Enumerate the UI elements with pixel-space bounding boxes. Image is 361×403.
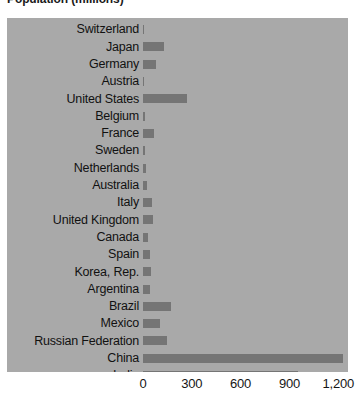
- bar-track: [143, 142, 348, 159]
- bar-category-label: Canada: [7, 231, 143, 244]
- bar-track: [143, 56, 348, 73]
- bar-track: [143, 332, 348, 349]
- bar-row: Australia: [7, 177, 348, 194]
- bar: [143, 129, 154, 138]
- bar-category-label: Sweden: [7, 144, 143, 157]
- x-tick-label: 0: [139, 376, 146, 391]
- bar-row: Russian Federation: [7, 332, 348, 349]
- bar-category-label: Belgium: [7, 110, 143, 123]
- bar: [143, 302, 171, 311]
- bar-track: [143, 194, 348, 211]
- bar-row: United States: [7, 90, 348, 107]
- bar: [143, 198, 152, 207]
- x-tick-label: 900: [279, 376, 300, 391]
- bar-track: [143, 246, 348, 263]
- bar: [143, 112, 145, 121]
- bar-row: Netherlands: [7, 159, 348, 176]
- bar-category-label: Korea, Rep.: [7, 266, 143, 279]
- bar-row: Canada: [7, 229, 348, 246]
- bar: [143, 233, 148, 242]
- bar-row: Brazil: [7, 298, 348, 315]
- bar-category-label: Germany: [7, 58, 143, 71]
- bar-track: [143, 350, 348, 367]
- x-axis: 03006009001,200: [7, 374, 348, 396]
- bar-category-label: Italy: [7, 196, 143, 209]
- bar-row: Sweden: [7, 142, 348, 159]
- bar: [143, 25, 144, 34]
- bar: [143, 77, 144, 86]
- bar-track: [143, 177, 348, 194]
- bar-track: [143, 280, 348, 297]
- bar: [143, 94, 187, 103]
- bar: [143, 164, 146, 173]
- bar-track: [143, 73, 348, 90]
- bar-track: [143, 315, 348, 332]
- bar-row: Italy: [7, 194, 348, 211]
- bar-track: [143, 125, 348, 142]
- bar-track: [143, 229, 348, 246]
- bar-track: [143, 298, 348, 315]
- bar: [143, 250, 150, 259]
- bar: [143, 215, 153, 224]
- bar-category-label: Austria: [7, 75, 143, 88]
- bar-rows-container: SwitzerlandJapanGermanyAustriaUnited Sta…: [7, 18, 348, 372]
- bar-category-label: Spain: [7, 248, 143, 261]
- bar-track: [143, 107, 348, 124]
- chart-title: Population (millions): [7, 0, 124, 6]
- bar-category-label: Australia: [7, 179, 143, 192]
- chart-plot-area: SwitzerlandJapanGermanyAustriaUnited Sta…: [7, 18, 348, 372]
- bar-row: China: [7, 350, 348, 367]
- bar: [143, 146, 145, 155]
- x-tick-label: 1,200: [322, 376, 354, 391]
- bar-row: France: [7, 125, 348, 142]
- bar: [143, 354, 343, 363]
- bar-row: United Kingdom: [7, 211, 348, 228]
- bar-track: [143, 21, 348, 38]
- bar-category-label: India: [7, 369, 143, 372]
- bar-row: Germany: [7, 56, 348, 73]
- bar-category-label: Mexico: [7, 317, 143, 330]
- bar: [143, 267, 151, 276]
- bar-row: India: [7, 367, 348, 372]
- bar-row: Switzerland: [7, 21, 348, 38]
- bar-category-label: China: [7, 352, 143, 365]
- bar-row: Austria: [7, 73, 348, 90]
- bar-track: [143, 211, 348, 228]
- bar: [143, 181, 147, 190]
- bar-track: [143, 38, 348, 55]
- bar-category-label: Switzerland: [7, 23, 143, 36]
- bar-category-label: United Kingdom: [7, 214, 143, 227]
- bar-row: Belgium: [7, 107, 348, 124]
- bar-category-label: United States: [7, 93, 143, 106]
- bar-category-label: Argentina: [7, 283, 143, 296]
- bar-row: Mexico: [7, 315, 348, 332]
- bar-row: Spain: [7, 246, 348, 263]
- bar-track: [143, 90, 348, 107]
- x-tick-label: 300: [181, 376, 202, 391]
- bar-row: Argentina: [7, 280, 348, 297]
- bar: [143, 60, 156, 69]
- bar: [143, 285, 150, 294]
- bar: [143, 42, 164, 51]
- bar-track: [143, 367, 348, 372]
- bar-track: [143, 159, 348, 176]
- bar-track: [143, 263, 348, 280]
- bar: [143, 319, 160, 328]
- bar-category-label: Japan: [7, 41, 143, 54]
- bar-category-label: Netherlands: [7, 162, 143, 175]
- bar: [143, 371, 298, 372]
- bar-category-label: Brazil: [7, 300, 143, 313]
- bar: [143, 336, 167, 345]
- bar-row: Korea, Rep.: [7, 263, 348, 280]
- x-tick-label: 600: [230, 376, 251, 391]
- bar-row: Japan: [7, 38, 348, 55]
- bar-category-label: Russian Federation: [7, 335, 143, 348]
- bar-category-label: France: [7, 127, 143, 140]
